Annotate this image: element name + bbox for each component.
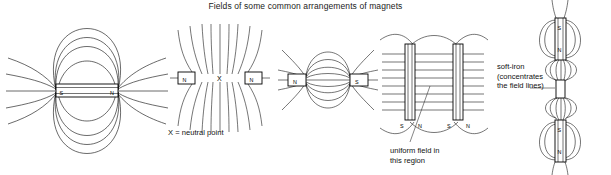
caption-soft-iron: soft-iron (concentrates the field lines)	[497, 62, 544, 91]
pole-label-left-top: S	[400, 123, 404, 129]
soft-iron-bar	[556, 80, 565, 98]
pole-label-top-magnet-top: S	[558, 25, 562, 31]
bar-magnet-body: S N	[56, 84, 118, 97]
caption-uniform-field: uniform field in this region	[390, 146, 439, 165]
left-magnet: N	[278, 74, 306, 86]
pole-label-right: N	[110, 90, 114, 96]
right-magnet: N	[245, 72, 270, 84]
caption-neutral-point: X = neutral point	[168, 128, 224, 138]
pole-label-left: S	[60, 90, 64, 96]
pole-label-left: N	[293, 79, 297, 85]
figure-uniform-field: S N S N	[380, 24, 488, 144]
figure-single-bar-magnet: S N	[6, 14, 168, 166]
bottom-magnet: S N	[555, 120, 566, 162]
right-magnet: S	[350, 74, 378, 86]
pole-label-bottom-magnet-bottom: N	[558, 149, 562, 155]
figure-plate: Fields of some common arrangements of ma…	[0, 0, 611, 175]
pole-label-left: N	[183, 77, 187, 83]
right-vertical-magnet: S N	[447, 44, 470, 129]
pole-label-right-bottom: N	[466, 123, 470, 129]
top-magnet: S N	[555, 18, 566, 60]
figure-like-poles: N N X	[170, 24, 270, 132]
pole-label-right: N	[250, 77, 254, 83]
pole-label-bottom-magnet-top: S	[558, 127, 562, 133]
neutral-point-marker: X	[217, 75, 222, 82]
pole-label-right-top: S	[447, 123, 451, 129]
pole-label-left-bottom: N	[418, 123, 422, 129]
pole-label-right: S	[355, 79, 359, 85]
left-magnet: N	[170, 72, 195, 84]
left-vertical-magnet: S N	[400, 44, 422, 129]
figure-unlike-poles: N S	[278, 30, 378, 130]
pole-label-top-magnet-bottom: N	[558, 47, 562, 53]
